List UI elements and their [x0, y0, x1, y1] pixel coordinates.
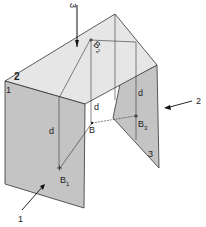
label-arrow-3: 2 — [196, 96, 201, 106]
label-plane-3: 3 — [148, 149, 153, 159]
label-d-1: d — [49, 126, 54, 136]
label-d-3: d — [138, 88, 143, 98]
label-b: B — [89, 125, 95, 135]
projection-diagram: 2 1 3 3 1 2 d d d B B 1 B 2 B 3 — [0, 0, 206, 227]
label-d-2: d — [94, 102, 99, 112]
point-b — [91, 122, 93, 124]
label-plane-2: 2 — [14, 71, 20, 82]
label-plane-1: 1 — [6, 85, 11, 95]
label-arrow-1: 1 — [18, 214, 23, 224]
label-arrow-2: 3 — [68, 3, 78, 8]
arrow-3-icon — [164, 105, 171, 110]
